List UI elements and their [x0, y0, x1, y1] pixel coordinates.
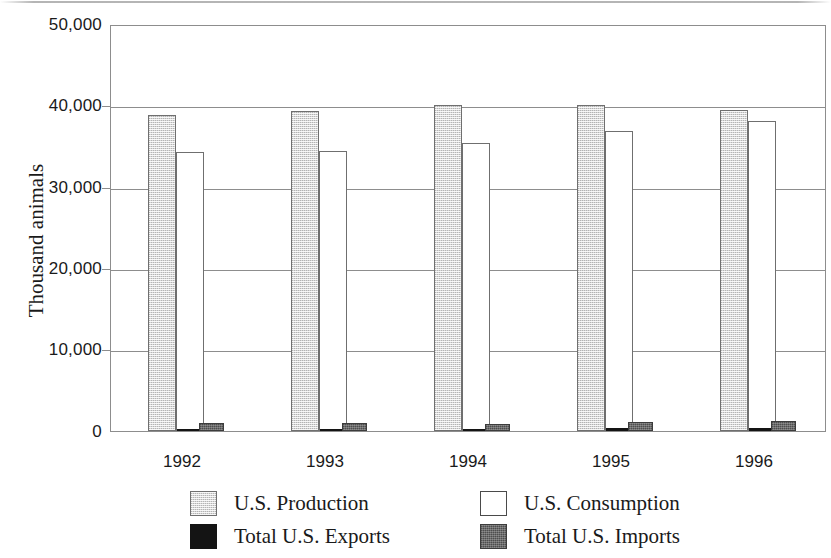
bar-production-1993	[291, 111, 319, 431]
bar-consumption-1993	[319, 151, 347, 431]
legend-item-us-consumption: U.S. Consumption	[480, 489, 680, 517]
y-axis-tick-label: 30,000	[2, 178, 102, 198]
chart-legend: U.S. Production U.S. Consumption Total U…	[190, 489, 750, 551]
bar-production-1996	[720, 110, 748, 431]
bar-exports-1993	[320, 429, 342, 431]
legend-label-us-consumption: U.S. Consumption	[524, 491, 680, 516]
bar-imports-1992	[199, 423, 224, 431]
legend-label-us-production: U.S. Production	[234, 491, 369, 516]
x-axis-label-1992: 1992	[122, 452, 242, 472]
bar-consumption-1995	[605, 131, 633, 431]
bar-imports-1995	[628, 422, 653, 431]
legend-swatch-exports-icon	[190, 524, 217, 549]
y-axis-tick-mark	[102, 350, 110, 351]
bar-production-1992	[148, 115, 176, 431]
bar-group-1995	[540, 26, 683, 431]
x-axis-label-1996: 1996	[694, 452, 814, 472]
bar-production-1994	[434, 105, 462, 431]
bar-group-1994	[397, 26, 540, 431]
y-axis-tick-label: 40,000	[2, 96, 102, 116]
bar-chart: 50,000 40,000 30,000 20,000 10,000 0 Tho…	[0, 0, 831, 558]
x-axis-label-1993: 1993	[265, 452, 385, 472]
bar-group-1992	[111, 26, 254, 431]
y-axis-tick-label: 0	[2, 422, 102, 442]
legend-item-us-production: U.S. Production	[190, 489, 369, 517]
x-axis-label-1994: 1994	[408, 452, 528, 472]
bar-group-1996	[683, 26, 826, 431]
x-axis-label-1995: 1995	[551, 452, 671, 472]
bar-exports-1996	[749, 428, 771, 431]
bar-imports-1996	[771, 421, 796, 431]
bar-consumption-1992	[176, 152, 204, 431]
bar-group-1993	[254, 26, 397, 431]
y-axis-tick-labels: 50,000 40,000 30,000 20,000 10,000 0	[0, 0, 102, 558]
legend-swatch-consumption-icon	[480, 491, 507, 516]
bar-imports-1994	[485, 424, 510, 431]
bar-consumption-1996	[748, 121, 776, 431]
bar-consumption-1994	[462, 143, 490, 431]
legend-item-total-us-imports: Total U.S. Imports	[480, 522, 680, 550]
bar-exports-1995	[606, 428, 628, 431]
bar-imports-1993	[342, 423, 367, 431]
legend-label-total-us-exports: Total U.S. Exports	[234, 524, 390, 549]
legend-item-total-us-exports: Total U.S. Exports	[190, 522, 390, 550]
plot-area	[110, 25, 826, 432]
y-axis-tick-label: 20,000	[2, 259, 102, 279]
bar-production-1995	[577, 105, 605, 431]
y-axis-title: Thousand animals	[24, 111, 49, 371]
legend-swatch-imports-icon	[480, 524, 507, 549]
bar-exports-1992	[177, 429, 199, 431]
y-axis-tick-mark	[102, 106, 110, 107]
legend-label-total-us-imports: Total U.S. Imports	[524, 524, 680, 549]
y-axis-tick-label: 10,000	[2, 340, 102, 360]
y-axis-tick-label: 50,000	[2, 15, 102, 35]
y-axis-tick-mark	[102, 269, 110, 270]
bar-exports-1994	[463, 429, 485, 431]
legend-swatch-production-icon	[190, 491, 217, 516]
y-axis-tick-mark	[102, 188, 110, 189]
